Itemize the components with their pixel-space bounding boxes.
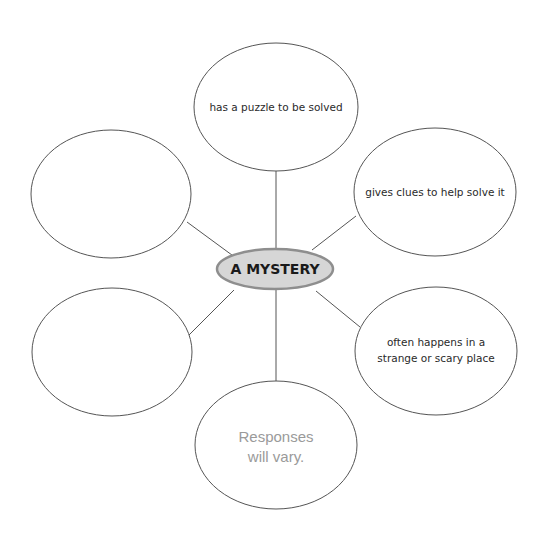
spoke-top-left bbox=[187, 222, 236, 258]
bubble-bottom: Responses will vary. bbox=[195, 381, 357, 509]
spoke-bottom-right bbox=[316, 291, 360, 327]
bubble-bottom-text-line2: will vary. bbox=[247, 448, 304, 465]
bubble-top-right-text: gives clues to help solve it bbox=[365, 186, 504, 198]
spoke-bottom-left bbox=[189, 290, 234, 335]
word-web-diagram: has a puzzle to be solved gives clues to… bbox=[0, 0, 543, 542]
bubble-bottom-right-text-line2: strange or scary place bbox=[377, 352, 494, 364]
bubble-top-text: has a puzzle to be solved bbox=[209, 101, 342, 113]
bubble-bottom-right: often happens in a strange or scary plac… bbox=[355, 287, 517, 415]
center-hub: A MYSTERY bbox=[217, 249, 333, 289]
center-hub-label: A MYSTERY bbox=[230, 261, 320, 277]
bubble-top: has a puzzle to be solved bbox=[194, 43, 358, 171]
spoke-top-right bbox=[312, 216, 356, 250]
bubble-top-right: gives clues to help solve it bbox=[354, 128, 516, 256]
bubble-bottom-text-line1: Responses bbox=[238, 428, 313, 445]
bubble-bottom-left bbox=[32, 288, 192, 416]
bubble-bottom-right-text-line1: often happens in a bbox=[387, 336, 485, 348]
bubble-top-left bbox=[31, 130, 191, 258]
